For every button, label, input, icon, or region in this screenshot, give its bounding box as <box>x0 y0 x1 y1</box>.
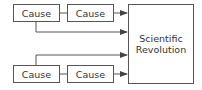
cause-label: Cause <box>76 69 105 80</box>
cause-box-bottom-left: Cause <box>13 65 60 83</box>
cause-box-top-left: Cause <box>13 4 60 22</box>
cause-box-bottom-right: Cause <box>67 65 114 83</box>
cause-label: Cause <box>76 8 105 19</box>
result-box: Scientific Revolution <box>128 4 194 84</box>
cause-label: Cause <box>22 8 51 19</box>
arrow-top-left-cause-to-result <box>36 21 127 32</box>
result-label-line1: Scientific <box>139 33 182 44</box>
cause-box-top-right: Cause <box>67 4 114 22</box>
cause-label: Cause <box>22 69 51 80</box>
result-label-line2: Revolution <box>136 44 186 55</box>
arrow-bottom-left-cause-to-result <box>36 55 127 65</box>
